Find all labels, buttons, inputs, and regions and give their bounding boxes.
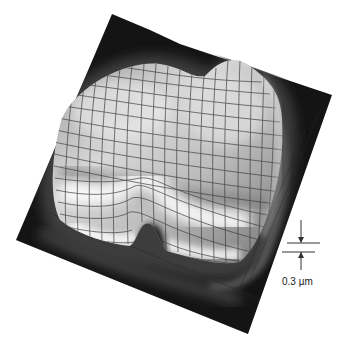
afm-surface-figure: 0.3 µm — [0, 0, 346, 346]
scale-bar — [282, 220, 320, 270]
surface-feature — [53, 60, 284, 264]
arrow-down-icon — [298, 237, 304, 243]
scale-bar-label: 0.3 µm — [282, 276, 313, 287]
afm-surface-render — [0, 0, 346, 346]
